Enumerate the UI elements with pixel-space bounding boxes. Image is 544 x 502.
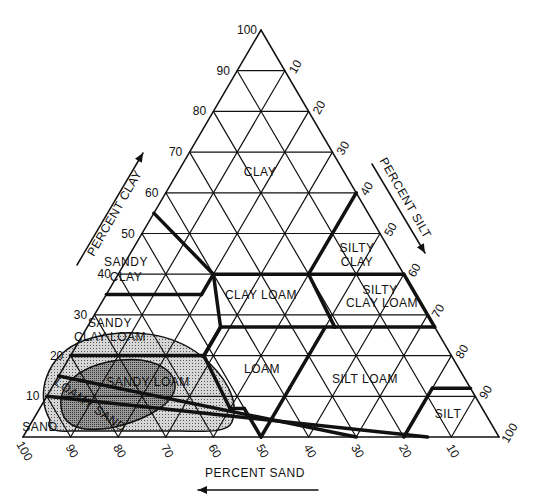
silt-tick-label: 60 — [405, 261, 424, 280]
sand-tick-label: 40 — [301, 442, 320, 461]
region-label-clay-loam: CLAY LOAM — [225, 288, 297, 302]
silt-arrow-icon-head — [417, 243, 425, 253]
axis-title-sand: PERCENT SAND — [205, 466, 305, 480]
boundary-line — [309, 274, 335, 327]
region-label-sandy-clay-loam: CLAY LOAM — [74, 330, 146, 344]
clay-tick-label: 50 — [121, 227, 135, 241]
clay-tick-label: 80 — [193, 104, 207, 118]
silt-tick-label: 30 — [334, 139, 353, 158]
silt-tick-label: 10 — [286, 57, 305, 76]
clay-tick-label: 20 — [50, 349, 64, 363]
boundary-line — [261, 388, 290, 437]
region-label-clay: CLAY — [244, 165, 276, 179]
region-label-loam: LOAM — [244, 362, 280, 376]
sand-tick-label: 10 — [443, 442, 462, 461]
silt-tick-label: 40 — [357, 179, 376, 198]
clay-tick-label: 30 — [74, 308, 88, 322]
clay-arrow-icon-head — [135, 153, 143, 163]
boundary-line — [204, 327, 221, 355]
silt-tick-label: 70 — [429, 301, 448, 320]
soil-texture-triangle: 1020304050607080901001020304050607080901… — [0, 0, 544, 502]
clay-tick-label: 100 — [237, 23, 257, 37]
clay-tick-label: 90 — [217, 64, 231, 78]
sand-tick-label: 30 — [348, 442, 367, 461]
region-label-silty-clay-loam: CLAY LOAM — [346, 296, 418, 310]
boundary-line — [213, 274, 220, 327]
sand-tick-label: 90 — [63, 442, 82, 461]
sand-tick-label: 60 — [205, 442, 224, 461]
sand-tick-label: 20 — [396, 442, 415, 461]
region-label-sandy-clay-loam: SANDY — [88, 316, 132, 330]
region-label-silty-clay: SILTY — [340, 241, 375, 255]
region-label-sandy-clay: SANDY — [104, 255, 148, 269]
region-label-silty-clay: CLAY — [341, 255, 373, 269]
clay-tick-label: 70 — [169, 145, 183, 159]
boundary-line — [404, 388, 433, 437]
silt-tick-label: 80 — [453, 342, 472, 361]
region-label-sandy-loam: SANDY LOAM — [106, 375, 189, 389]
clay-tick-label: 10 — [26, 389, 40, 403]
region-label-silt-loam: SILT LOAM — [332, 372, 398, 386]
region-label-sand: SAND — [22, 420, 57, 434]
region-label-silty-clay-loam: SILTY — [363, 283, 398, 297]
boundary-line — [202, 274, 214, 294]
region-label-silt: SILT — [435, 407, 462, 421]
silt-tick-label: 100 — [498, 421, 520, 446]
silt-tick-label: 90 — [476, 383, 495, 402]
region-label-sandy-clay: CLAY — [110, 270, 142, 284]
silt-tick-label: 20 — [310, 98, 329, 117]
region-labels: CLAYSANDYCLAYSILTYCLAYCLAY LOAMSILTYCLAY… — [22, 165, 461, 434]
sand-tick-label: 80 — [110, 442, 129, 461]
sand-arrow-icon-head — [198, 486, 207, 494]
sand-tick-label: 50 — [253, 442, 272, 461]
silt-tick-label: 50 — [381, 220, 400, 239]
boundary-line — [290, 327, 326, 388]
sand-tick-label: 100 — [13, 439, 35, 464]
clay-tick-label: 60 — [145, 186, 159, 200]
sand-tick-label: 70 — [158, 442, 177, 461]
